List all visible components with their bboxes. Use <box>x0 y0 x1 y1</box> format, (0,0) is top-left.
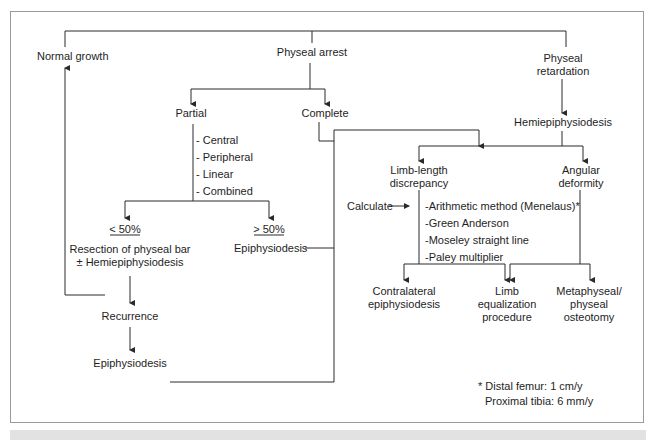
node-limb-eq-line3: procedure <box>478 311 537 324</box>
node-metaphyseal-line1: Metaphyseal/ <box>556 285 621 298</box>
partial-type-peripheral: - Peripheral <box>196 149 253 166</box>
node-metaphyseal-line3: osteotomy <box>556 311 621 324</box>
node-limb-length-discrepancy: Limb-length discrepancy <box>390 164 449 190</box>
node-resection-line2: ± Hemiepiphysiodesis <box>69 256 190 269</box>
node-resection-line1: Resection of physeal bar <box>69 243 190 256</box>
node-contralateral-line2: epiphysiodesis <box>368 298 440 311</box>
method-green-anderson: -Green Anderson <box>425 215 580 232</box>
node-metaphyseal-osteotomy: Metaphyseal/ physeal osteotomy <box>556 285 621 324</box>
node-contralateral-epiphysiodesis: Contralateral epiphysiodesis <box>368 285 440 311</box>
node-less-than-50: < 50% <box>109 223 141 236</box>
node-epiphysiodesis-gt50: Epiphysiodesis <box>234 242 307 255</box>
node-limb-eq-line2: equalization <box>478 298 537 311</box>
node-calculate: Calculate <box>347 200 393 213</box>
node-lld-line2: discrepancy <box>390 177 449 190</box>
node-limb-eq-line1: Limb <box>478 285 537 298</box>
node-physeal-retardation: Physeal retardation <box>537 52 590 78</box>
node-metaphyseal-line2: physeal <box>556 298 621 311</box>
partial-type-central: - Central <box>196 132 253 149</box>
node-normal-growth: Normal growth <box>37 50 109 63</box>
method-paley: -Paley multiplier <box>425 249 580 266</box>
node-lld-line1: Limb-length <box>390 164 449 177</box>
node-complete: Complete <box>301 107 348 120</box>
node-greater-than-50: > 50% <box>253 223 285 236</box>
method-arithmetic: -Arithmetic method (Menelaus)* <box>425 198 580 215</box>
partial-type-combined: - Combined <box>196 183 253 200</box>
node-recurrence: Recurrence <box>102 310 159 323</box>
node-limb-equalization: Limb equalization procedure <box>478 285 537 324</box>
node-physeal-retardation-line1: Physeal <box>537 52 590 65</box>
node-hemiepiphysiodesis: Hemiepiphysiodesis <box>514 116 612 129</box>
node-resection: Resection of physeal bar ± Hemiepiphysio… <box>69 243 190 269</box>
node-angular-deformity: Angular deformity <box>558 164 603 190</box>
calculation-methods-list: -Arithmetic method (Menelaus)* -Green An… <box>425 198 580 266</box>
node-angular-line1: Angular <box>558 164 603 177</box>
node-contralateral-line1: Contralateral <box>368 285 440 298</box>
node-angular-line2: deformity <box>558 177 603 190</box>
partial-types-list: - Central - Peripheral - Linear - Combin… <box>196 132 253 200</box>
node-physeal-arrest: Physeal arrest <box>277 46 347 59</box>
node-physeal-retardation-line2: retardation <box>537 65 590 78</box>
footnote: * Distal femur: 1 cm/y Proximal tibia: 6… <box>478 380 593 408</box>
footnote-line2: Proximal tibia: 6 mm/y <box>478 395 593 408</box>
partial-type-linear: - Linear <box>196 166 253 183</box>
node-partial: Partial <box>175 107 206 120</box>
footnote-line1: * Distal femur: 1 cm/y <box>478 380 593 393</box>
node-epiphysiodesis-bottom: Epiphysiodesis <box>93 357 166 370</box>
method-moseley: -Moseley straight line <box>425 232 580 249</box>
